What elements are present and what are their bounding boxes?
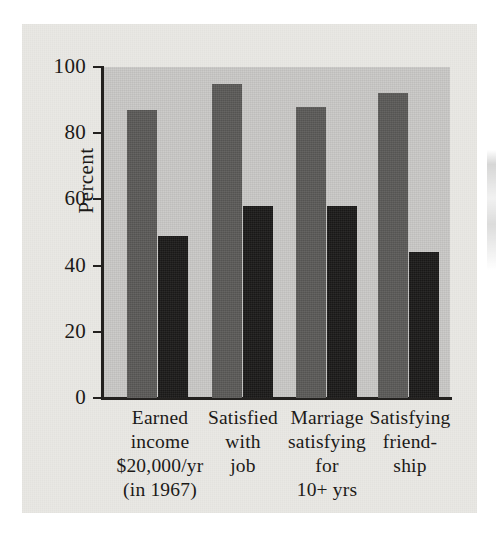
y-axis-tick-label: 20 [34,321,86,342]
bar [378,93,408,398]
y-axis-tick-label: 40 [34,255,86,276]
y-axis-tick-label: 60 [34,188,86,209]
y-axis-spine [101,66,104,399]
y-axis-tick-mark [93,198,102,200]
y-axis-tick-mark [93,331,102,333]
x-axis-category-label-line: 10+ yrs [263,478,391,502]
bar [127,110,157,398]
y-axis-tick-mark [93,397,102,399]
bar [327,206,357,398]
x-axis-category-label-line: friend- [346,430,474,454]
y-axis-tick-mark [93,132,102,134]
x-axis-category-label: Satisfyingfriend-ship [346,406,474,478]
y-axis-tick-label: 80 [34,122,86,143]
y-axis-tick-mark [93,265,102,267]
y-axis-tick-mark [93,66,102,68]
bar [296,107,326,398]
y-axis-tick-label: 100 [34,56,86,77]
bar [212,84,242,398]
x-axis-category-label-line: Satisfying [346,406,474,430]
y-axis-tick-label: 0 [34,387,86,408]
bar [409,252,439,398]
x-axis-category-label-line: (in 1967) [96,478,224,502]
figure-canvas: Percent 020406080100 Earnedincome$20,000… [0,0,502,536]
bar [243,206,273,398]
scan-edge-artifact-icon [487,150,496,270]
bar [158,236,188,398]
x-axis-category-label-line: ship [346,454,474,478]
